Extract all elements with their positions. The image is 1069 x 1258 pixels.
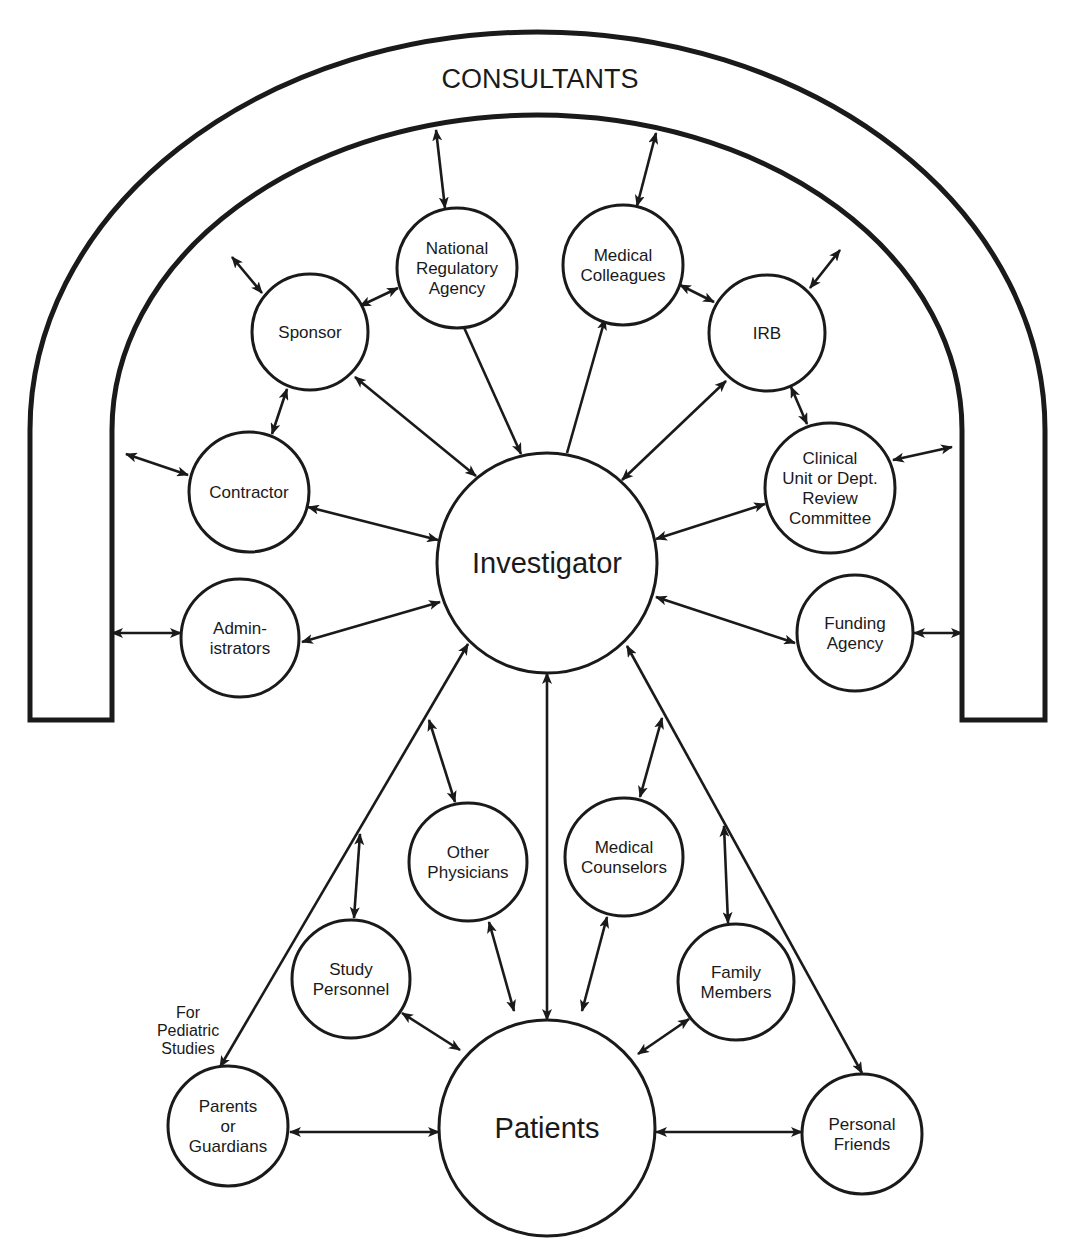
- node-label: Study: [329, 960, 373, 979]
- relationship-arrow: [360, 288, 398, 306]
- relationship-arrow: [354, 834, 360, 918]
- node-label: Medical: [595, 838, 654, 857]
- relationship-arrow: [489, 922, 514, 1011]
- node-label: Clinical: [803, 449, 858, 468]
- relationship-arrow: [810, 250, 840, 288]
- node-patients: Patients: [439, 1020, 655, 1236]
- node-circle: [802, 1074, 922, 1194]
- node-label: Unit or Dept.: [782, 469, 877, 488]
- node-label: Medical: [594, 246, 653, 265]
- relationship-arrow: [302, 602, 440, 642]
- relationship-arrow: [436, 130, 445, 208]
- node-label: Review: [802, 489, 858, 508]
- relationship-arrow: [462, 323, 521, 454]
- node-label: or: [220, 1117, 235, 1136]
- node-label: Agency: [827, 634, 884, 653]
- relationship-arrow: [724, 826, 728, 923]
- node-label: Personnel: [313, 980, 390, 999]
- node-label: Patients: [495, 1112, 600, 1144]
- relationship-arrow: [893, 447, 952, 460]
- node-circle: [181, 579, 299, 697]
- node-investigator: Investigator: [437, 453, 657, 673]
- node-study-personnel: StudyPersonnel: [292, 920, 410, 1038]
- relationship-arrow: [355, 377, 476, 476]
- relationship-arrow: [638, 1019, 689, 1054]
- node-circle: [565, 798, 683, 916]
- node-label: Contractor: [209, 483, 289, 502]
- node-label: Friends: [834, 1135, 891, 1154]
- node-label: Other: [447, 843, 490, 862]
- relationship-arrow: [622, 381, 726, 480]
- node-label: Parents: [199, 1097, 258, 1116]
- node-circle: [678, 924, 794, 1040]
- relationship-arrow: [680, 285, 714, 302]
- node-label: Family: [711, 963, 762, 982]
- node-label: Members: [701, 983, 772, 1002]
- relationship-arrow: [429, 720, 455, 802]
- relationship-arrow: [308, 507, 438, 540]
- node-other-physicians: OtherPhysicians: [409, 803, 527, 921]
- consultants-relationship-diagram: CONSULTANTS InvestigatorPatientsNational…: [0, 0, 1069, 1258]
- node-label: Funding: [824, 614, 885, 633]
- node-contractor: Contractor: [189, 432, 309, 552]
- relationship-arrow: [656, 504, 765, 539]
- relationship-arrow: [232, 257, 262, 293]
- node-national-regulatory-agency: NationalRegulatoryAgency: [397, 208, 517, 328]
- node-label: Investigator: [472, 547, 622, 579]
- relationship-arrow: [791, 387, 807, 424]
- node-label: Sponsor: [278, 323, 342, 342]
- node-label: Regulatory: [416, 259, 499, 278]
- node-label: Counselors: [581, 858, 667, 877]
- node-medical-counselors: MedicalCounselors: [565, 798, 683, 916]
- stakeholder-nodes: InvestigatorPatientsNationalRegulatoryAg…: [168, 205, 922, 1236]
- pediatric-studies-note: ForPediatricStudies: [157, 1004, 219, 1057]
- node-circle: [409, 803, 527, 921]
- node-label: IRB: [753, 324, 781, 343]
- node-administrators: Admin-istrators: [181, 579, 299, 697]
- consultants-title: CONSULTANTS: [441, 64, 638, 94]
- node-circle: [563, 205, 683, 325]
- relationship-arrow: [272, 389, 287, 434]
- node-medical-colleagues: MedicalColleagues: [563, 205, 683, 325]
- node-label: Committee: [789, 509, 871, 528]
- relationship-arrow: [567, 319, 605, 453]
- node-label: Admin-: [213, 619, 267, 638]
- node-funding-agency: FundingAgency: [797, 575, 913, 691]
- node-parents-or-guardians: ParentsorGuardians: [168, 1066, 288, 1186]
- relationship-arrow: [656, 597, 795, 643]
- node-label: Guardians: [189, 1137, 267, 1156]
- node-circle: [292, 920, 410, 1038]
- node-sponsor: Sponsor: [252, 274, 368, 390]
- relationship-arrow: [402, 1013, 460, 1050]
- relationship-arrow: [640, 718, 662, 797]
- relationship-arrow: [582, 917, 607, 1011]
- relationship-arrow: [126, 454, 188, 475]
- node-label: Agency: [429, 279, 486, 298]
- node-label: National: [426, 239, 488, 258]
- node-label: Colleagues: [580, 266, 665, 285]
- node-clinical-unit-review-committee: ClinicalUnit or Dept.ReviewCommittee: [765, 423, 895, 553]
- node-label: istrators: [210, 639, 270, 658]
- node-label: Personal: [828, 1115, 895, 1134]
- node-label: Physicians: [427, 863, 508, 882]
- node-family-members: FamilyMembers: [678, 924, 794, 1040]
- node-irb: IRB: [709, 275, 825, 391]
- node-circle: [797, 575, 913, 691]
- node-circle: [765, 423, 895, 553]
- node-personal-friends: PersonalFriends: [802, 1074, 922, 1194]
- relationship-arrow: [637, 133, 656, 206]
